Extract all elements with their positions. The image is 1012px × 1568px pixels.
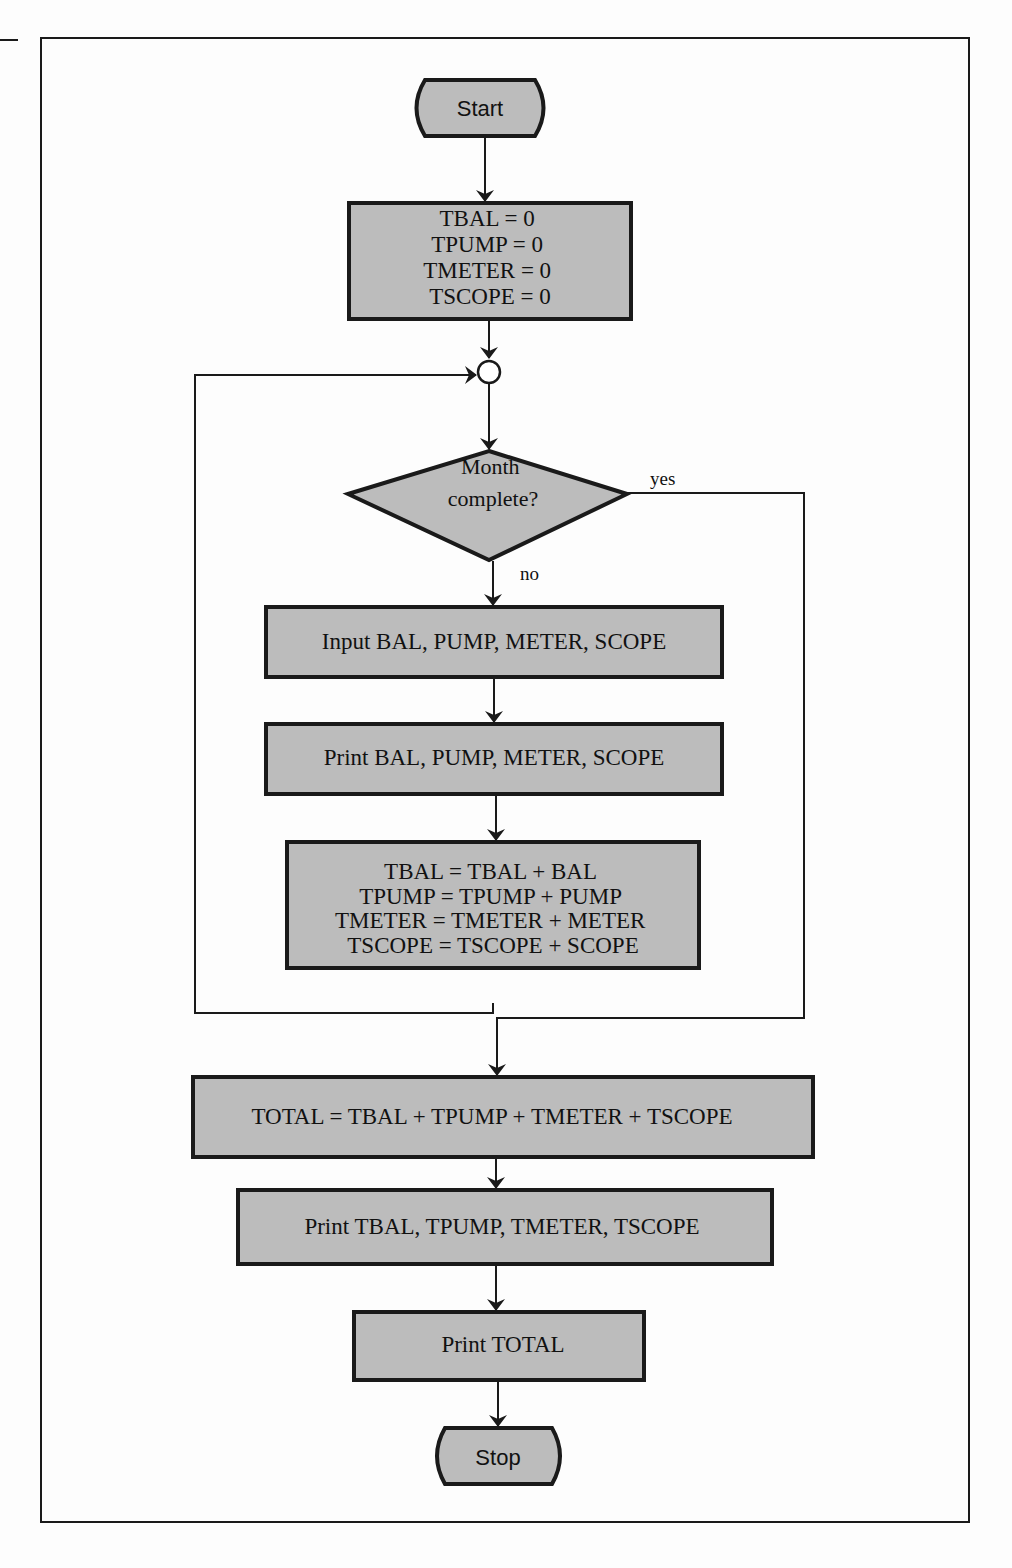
flowchart: Start TBAL = 0 TPUMP = 0 TMETER = 0 TSCO… (0, 0, 1012, 1568)
accumulate-line-tmeter: TMETER = TMETER + METER (335, 908, 646, 933)
accumulate-line-tbal: TBAL = TBAL + BAL (384, 859, 596, 884)
stop-label: Stop (475, 1445, 520, 1470)
print-totals-box: Print TBAL, TPUMP, TMETER, TSCOPE (238, 1190, 772, 1264)
init-line-tbal: TBAL = 0 (440, 206, 535, 231)
stop-terminator: Stop (437, 1428, 560, 1484)
no-label: no (520, 563, 539, 584)
init-line-tscope: TSCOPE = 0 (429, 284, 551, 309)
print-totals-label: Print TBAL, TPUMP, TMETER, TSCOPE (304, 1214, 699, 1239)
input-label: Input BAL, PUMP, METER, SCOPE (322, 629, 666, 654)
print-items-label: Print BAL, PUMP, METER, SCOPE (324, 745, 665, 770)
accumulate-totals-box: TBAL = TBAL + BAL TPUMP = TPUMP + PUMP T… (287, 842, 699, 968)
init-process-box: TBAL = 0 TPUMP = 0 TMETER = 0 TSCOPE = 0 (349, 203, 631, 319)
month-complete-decision: Month complete? (348, 451, 627, 560)
junction-connector (478, 361, 500, 383)
print-total-label: Print TOTAL (441, 1332, 564, 1357)
accumulate-line-tpump: TPUMP = TPUMP + PUMP (359, 884, 621, 909)
start-label: Start (457, 96, 503, 121)
compute-total-box: TOTAL = TBAL + TPUMP + TMETER + TSCOPE (193, 1077, 813, 1157)
print-values-box: Print BAL, PUMP, METER, SCOPE (266, 724, 722, 794)
yes-label: yes (650, 468, 675, 489)
decision-line-1: Month (461, 454, 520, 479)
accumulate-line-tscope: TSCOPE = TSCOPE + SCOPE (347, 933, 638, 958)
input-values-box: Input BAL, PUMP, METER, SCOPE (266, 607, 722, 677)
start-terminator: Start (417, 80, 544, 136)
print-total-box: Print TOTAL (354, 1312, 644, 1380)
init-line-tpump: TPUMP = 0 (431, 232, 543, 257)
total-label: TOTAL = TBAL + TPUMP + TMETER + TSCOPE (251, 1104, 732, 1129)
init-line-tmeter: TMETER = 0 (423, 258, 551, 283)
decision-line-2: complete? (448, 486, 538, 511)
svg-text:TBAL = 0 TPUMP = 0: TBAL = 0 TPUMP = 0 TMETER = 0 TSCOPE = 0 (423, 206, 557, 309)
